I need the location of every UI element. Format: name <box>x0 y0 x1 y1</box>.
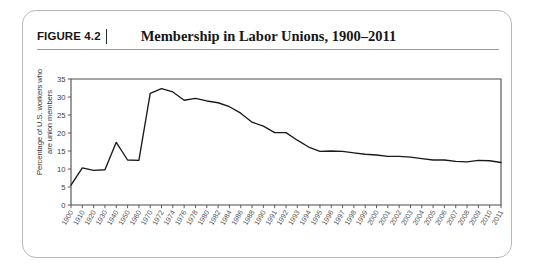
figure-title: Membership in Labor Unions, 1900–2011 <box>141 28 397 45</box>
y-tick-label: 25 <box>57 111 65 120</box>
figure-header: FIGURE 4.2 Membership in Labor Unions, 1… <box>37 23 499 50</box>
y-tick-label: 30 <box>57 93 65 102</box>
chart-plot-area: Percentage of U.S. workers who are union… <box>23 50 513 257</box>
data-series-line <box>71 89 501 185</box>
figure-card: FIGURE 4.2 Membership in Labor Unions, 1… <box>22 10 512 258</box>
plot-frame <box>71 79 501 205</box>
x-tick-label: 2011 <box>490 209 506 227</box>
line-chart-svg: 0510152025303519001910192019301940195019… <box>23 50 513 257</box>
y-tick-label: 15 <box>57 147 65 156</box>
y-tick-label: 5 <box>61 183 65 192</box>
figure-number-label: FIGURE 4.2 <box>37 29 107 44</box>
y-tick-label: 0 <box>61 201 65 210</box>
y-tick-label: 20 <box>57 129 65 138</box>
y-tick-label: 35 <box>57 75 65 84</box>
y-tick-label: 10 <box>57 165 65 174</box>
